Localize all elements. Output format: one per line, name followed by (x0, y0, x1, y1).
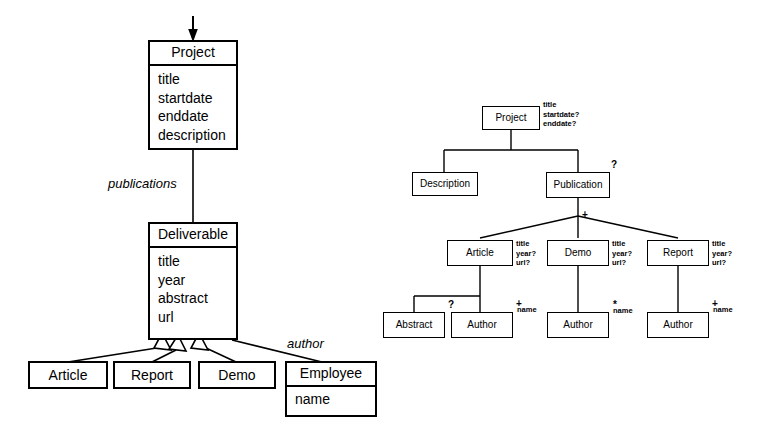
uml-class-project[interactable]: Project title startdate enddate descript… (148, 40, 238, 150)
uml-class-project-attributes: title startdate enddate description (150, 66, 236, 149)
tree-attribute: title (543, 100, 579, 110)
uml-attribute: title (158, 252, 236, 270)
uml-class-project-name: Project (150, 42, 236, 64)
tree-attribute: startdate? (543, 110, 579, 120)
tree-node-demo-attributes: title year? url? (612, 239, 632, 268)
tree-attribute: name (613, 307, 633, 315)
tree-attribute: year? (612, 249, 632, 259)
uml-attribute: year (158, 271, 236, 289)
tree-node-project-label: Project (495, 113, 526, 123)
tree-attribute: title (516, 239, 536, 249)
uml-class-deliverable-name: Deliverable (150, 224, 236, 246)
association-label-publications: publications (108, 176, 177, 191)
diagram-canvas: Project title startdate enddate descript… (0, 0, 758, 444)
uml-class-report[interactable]: Report (113, 361, 191, 389)
tree-node-demo[interactable]: Demo (547, 240, 609, 266)
tree-attribute: name (713, 306, 733, 314)
tree-attribute: year? (712, 249, 732, 259)
uml-attribute: description (158, 126, 236, 144)
tree-node-article[interactable]: Article (447, 240, 513, 266)
tree-attribute: url? (612, 258, 632, 268)
tree-node-article-label: Article (466, 248, 494, 258)
tree-node-author-demo-label: Author (563, 320, 592, 330)
tree-attribute: enddate? (543, 119, 579, 129)
uml-class-deliverable-attributes: title year abstract url (150, 248, 236, 331)
tree-node-project-attributes: title startdate? enddate? (543, 100, 579, 129)
uml-class-article-name: Article (30, 363, 106, 387)
cardinality-abstract: ? (448, 300, 454, 310)
tree-node-project[interactable]: Project (482, 106, 540, 130)
uml-attribute: url (158, 308, 236, 326)
tree-node-author-article[interactable]: Author (451, 312, 513, 338)
tree-node-report-attributes: title year? url? (712, 239, 732, 268)
tree-node-article-attributes: title year? url? (516, 239, 536, 268)
tree-attribute: title (712, 239, 732, 249)
tree-node-description[interactable]: Description (412, 172, 478, 196)
uml-attribute: startdate (158, 89, 236, 107)
tree-node-publication[interactable]: Publication (546, 172, 610, 198)
tree-attribute: url? (712, 258, 732, 268)
uml-class-report-name: Report (115, 363, 189, 387)
tree-attribute: year? (516, 249, 536, 259)
tree-node-report-label: Report (663, 248, 693, 258)
uml-attribute: abstract (158, 289, 236, 307)
tree-attribute: title (612, 239, 632, 249)
tree-node-report[interactable]: Report (647, 240, 709, 266)
tree-node-author-demo[interactable]: Author (547, 312, 609, 338)
uml-class-employee-attributes: name (287, 387, 375, 413)
tree-node-author-article-label: Author (467, 320, 496, 330)
tree-attribute: name (517, 306, 537, 314)
uml-attribute: name (295, 390, 375, 408)
tree-node-author-report-label: Author (663, 320, 692, 330)
uml-attribute: title (158, 70, 236, 88)
tree-node-author-report[interactable]: Author (647, 312, 709, 338)
tree-attribute: url? (516, 258, 536, 268)
tree-node-abstract-label: Abstract (396, 320, 433, 330)
tree-node-demo-label: Demo (565, 248, 592, 258)
tree-node-abstract[interactable]: Abstract (383, 312, 445, 338)
tree-node-description-label: Description (420, 179, 470, 189)
uml-class-demo[interactable]: Demo (198, 361, 276, 389)
tree-node-publication-label: Publication (554, 180, 603, 190)
uml-class-demo-name: Demo (200, 363, 274, 387)
cardinality-publication: ? (611, 160, 617, 170)
uml-class-employee[interactable]: Employee name (285, 361, 377, 417)
uml-attribute: enddate (158, 107, 236, 125)
cardinality-publication-children: + (582, 210, 588, 220)
uml-class-employee-name: Employee (287, 363, 375, 385)
association-label-author: author (287, 336, 324, 351)
uml-class-article[interactable]: Article (28, 361, 108, 389)
uml-class-deliverable[interactable]: Deliverable title year abstract url (148, 222, 238, 340)
